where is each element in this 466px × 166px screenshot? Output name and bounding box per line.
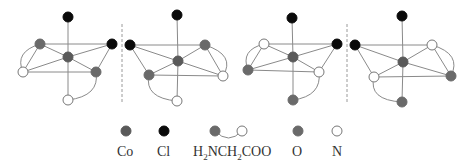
atom-o-icon (200, 40, 210, 50)
atom-cl-icon (63, 12, 73, 22)
bond-line (374, 76, 451, 77)
atom-cl-icon (287, 13, 297, 23)
legend-o-icon (293, 126, 303, 136)
atom-cl-icon (107, 39, 117, 49)
bond-line (402, 16, 403, 62)
isomer-3 (243, 13, 342, 105)
legend-label-co: Co (117, 144, 133, 160)
legend-cl-icon (159, 126, 169, 136)
atom-co-icon (173, 56, 183, 66)
legend-glycinate-n-icon (237, 126, 247, 136)
atom-co-icon (398, 57, 408, 67)
bond-line (178, 61, 223, 76)
atom-cl-icon (125, 40, 135, 50)
atom-cl-icon (172, 10, 182, 20)
atom-o-icon (288, 95, 298, 105)
bond-line (23, 57, 68, 72)
legend-n-icon (332, 126, 342, 136)
isomer-1 (18, 12, 117, 105)
bond-line (149, 75, 223, 76)
atom-o-icon (35, 39, 45, 49)
chelate-arc (293, 72, 319, 100)
atom-cl-icon (332, 39, 342, 49)
atom-n-icon (369, 72, 379, 82)
isomer-diagram (0, 0, 466, 166)
bond-line (177, 15, 178, 61)
atom-n-icon (259, 39, 269, 49)
atom-cl-icon (397, 11, 407, 21)
atom-n-icon (172, 96, 182, 106)
bond-line (355, 45, 403, 62)
isomer-4 (350, 11, 456, 107)
bond-line (292, 18, 293, 57)
atom-o-icon (446, 71, 456, 81)
legend-symbols (121, 126, 342, 138)
legend-label-cl: Cl (157, 144, 170, 160)
atom-n-icon (218, 71, 228, 81)
glycinate-h: H (193, 144, 203, 159)
atom-o-icon (243, 65, 253, 75)
atom-n-icon (314, 67, 324, 77)
bond-line (130, 45, 178, 61)
atom-n-icon (18, 67, 28, 77)
bond-line (248, 70, 319, 72)
atom-n-icon (427, 40, 437, 50)
legend-co-icon (121, 126, 131, 136)
atom-co-icon (63, 52, 73, 62)
glycinate-coo: COO (242, 144, 272, 159)
atom-o-icon (91, 67, 101, 77)
bond-line (402, 62, 403, 102)
atom-o-icon (144, 70, 154, 80)
atom-cl-icon (350, 40, 360, 50)
bond-line (355, 45, 374, 77)
legend-label-glycinate: H2NCH2COO (193, 144, 271, 162)
atom-co-icon (288, 52, 298, 62)
bond-line (177, 61, 178, 101)
legend-glycinate-o-icon (210, 126, 220, 136)
isomer-2 (125, 10, 228, 106)
legend-label-n: N (332, 144, 342, 160)
isomer-structures (18, 10, 456, 107)
chelate-arc (68, 72, 96, 100)
glycinate-nch: NCH (208, 144, 238, 159)
atom-o-icon (397, 97, 407, 107)
atom-n-icon (63, 95, 73, 105)
legend-label-o: O (292, 144, 302, 160)
